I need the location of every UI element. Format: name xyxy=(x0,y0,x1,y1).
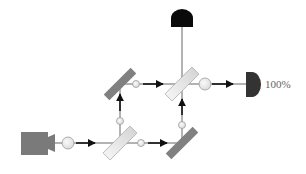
photon-icon xyxy=(117,118,124,125)
detector-right-icon xyxy=(246,72,261,97)
photon-icon xyxy=(199,78,211,90)
photon-icon xyxy=(179,122,186,129)
detector-top-icon xyxy=(171,9,193,27)
interferometer-diagram xyxy=(0,0,306,174)
photon-icon xyxy=(138,140,145,147)
photon-icon xyxy=(133,81,140,88)
direction-arrows xyxy=(76,84,233,143)
detector-right-percentage-label: 100% xyxy=(265,79,291,90)
photon-icon xyxy=(62,137,74,149)
laser-source-icon xyxy=(21,132,55,155)
